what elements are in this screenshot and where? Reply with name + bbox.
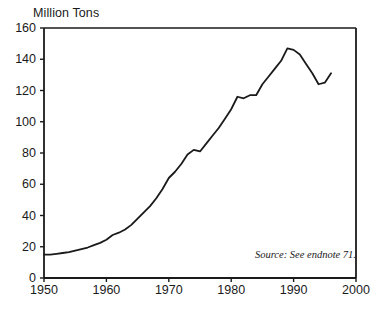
source-annotation: Source: See endnote 71. bbox=[255, 249, 356, 260]
chart-container: Million Tons 020406080100120140160 19501… bbox=[0, 0, 382, 317]
data-series-line bbox=[44, 48, 331, 254]
axis-frame bbox=[44, 28, 356, 278]
chart-plot-area bbox=[0, 0, 382, 317]
axis-tick-marks bbox=[40, 28, 356, 282]
